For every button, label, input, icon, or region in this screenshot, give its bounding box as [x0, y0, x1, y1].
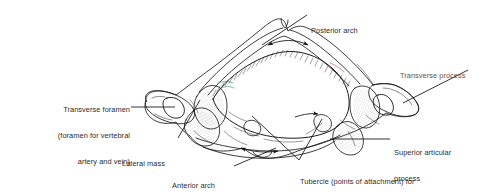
label-tubercle: Tubercle (points of attachment) for tran…	[300, 160, 414, 194]
leader-tubercle-right	[299, 119, 322, 160]
posterior-arch-hatching	[213, 50, 350, 96]
label-transverse-foramen-line1: Transverse foramen	[6, 106, 130, 115]
label-lateral-mass: Lateral mass	[122, 142, 165, 186]
tubercle-right-shade	[315, 117, 330, 131]
label-anterior-arch-line1: Anterior arch	[172, 182, 215, 191]
label-lateral-mass-line1: Lateral mass	[122, 160, 165, 169]
leader-anterior-arch-double-arrow	[241, 148, 278, 152]
bone-outline-group	[145, 19, 419, 159]
label-transverse-process: Transverse process	[400, 54, 466, 98]
label-posterior-arch-line1: Posterior arch	[311, 27, 358, 36]
left-process-detail-1	[152, 96, 165, 98]
left-transverse-foramen	[163, 97, 184, 118]
label-transverse-process-line1: Transverse process	[400, 72, 466, 81]
label-transverse-foramen-line2: (foramen for vertebral	[6, 132, 130, 141]
right-process-detail-2	[383, 88, 398, 92]
figure-atlas-vertebra: Posterior arch Transverse process Transv…	[0, 0, 503, 194]
label-transverse-foramen-line3: artery and vein)	[6, 158, 130, 167]
label-transverse-foramen: Transverse foramen (foramen for vertebra…	[6, 88, 130, 185]
right-lateral-mass-shade	[336, 124, 362, 152]
label-anterior-arch: Anterior arch	[172, 164, 215, 194]
label-posterior-arch: Posterior arch	[311, 9, 358, 53]
posterior-arch-inner-rim	[199, 28, 283, 92]
label-tubercle-line1: Tubercle (points of attachment) for	[300, 178, 414, 187]
leader-tubercle-arrow	[295, 114, 318, 117]
leader-posterior-arch-double-arrow	[268, 41, 308, 46]
label-superior-articular-process-line1: Superior articular	[394, 149, 451, 158]
